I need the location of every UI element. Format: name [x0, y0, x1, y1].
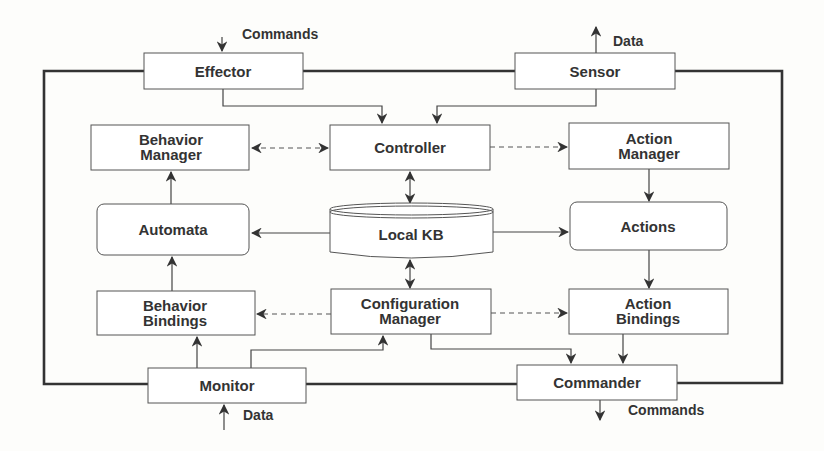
action-bindings-node: Action Bindings [569, 289, 728, 334]
config-manager-to-commander [431, 334, 571, 363]
commander-node: Commander [517, 365, 677, 400]
configuration-manager-node: Configuration Manager [331, 289, 491, 334]
svg-text:Actions: Actions [620, 218, 675, 235]
effector-node: Effector [144, 53, 303, 89]
monitor-node: Monitor [148, 368, 306, 403]
svg-text:Controller: Controller [374, 139, 446, 156]
svg-text:Bindings: Bindings [616, 310, 680, 327]
svg-text:Manager: Manager [140, 146, 202, 163]
data-in-label: Data [243, 407, 274, 423]
svg-text:Manager: Manager [379, 310, 441, 327]
architecture-diagram: Commands Data Data Commands Effector Sen… [0, 0, 824, 451]
svg-text:Monitor: Monitor [200, 377, 255, 394]
svg-text:Commander: Commander [553, 374, 641, 391]
actions-node: Actions [570, 202, 727, 250]
data-out-label: Data [613, 33, 644, 49]
action-manager-node: Action Manager [569, 123, 729, 169]
local-kb-node: Local KB [330, 203, 493, 258]
behavior-bindings-node: Behavior Bindings [97, 291, 255, 335]
svg-text:Sensor: Sensor [570, 63, 621, 80]
svg-text:Effector: Effector [195, 63, 252, 80]
monitor-to-config-manager [251, 336, 383, 368]
sensor-to-controller [437, 89, 596, 123]
controller-node: Controller [330, 125, 490, 170]
automata-node: Automata [97, 204, 249, 255]
svg-text:Automata: Automata [138, 221, 208, 238]
behavior-manager-node: Behavior Manager [91, 125, 249, 170]
commands-out-label: Commands [628, 402, 704, 418]
svg-text:Bindings: Bindings [143, 312, 207, 329]
effector-to-controller [223, 89, 382, 123]
svg-text:Local KB: Local KB [378, 226, 443, 243]
sensor-node: Sensor [515, 53, 675, 89]
svg-text:Manager: Manager [618, 145, 680, 162]
commands-in-label: Commands [242, 26, 318, 42]
